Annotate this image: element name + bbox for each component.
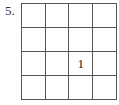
grid-cell (93, 52, 117, 76)
grid-cell (93, 28, 117, 52)
grid-cell (45, 28, 69, 52)
grid-cell (69, 76, 93, 100)
grid-cell (22, 52, 46, 76)
grid-row (22, 28, 117, 52)
grid-cell (93, 76, 117, 100)
grid-row (22, 76, 117, 100)
grid-cell (22, 4, 46, 28)
grid-cell (45, 52, 69, 76)
grid-row (22, 4, 117, 28)
grid-cell (45, 4, 69, 28)
grid-cell (22, 76, 46, 100)
puzzle-grid: 1 (21, 3, 117, 100)
grid-cell: 1 (69, 52, 93, 76)
grid-cell (22, 28, 46, 52)
grid-row: 1 (22, 52, 117, 76)
grid-cell (69, 4, 93, 28)
grid-cell (45, 76, 69, 100)
problem-number: 5. (5, 4, 15, 17)
grid-cell (93, 4, 117, 28)
grid-cell (69, 28, 93, 52)
